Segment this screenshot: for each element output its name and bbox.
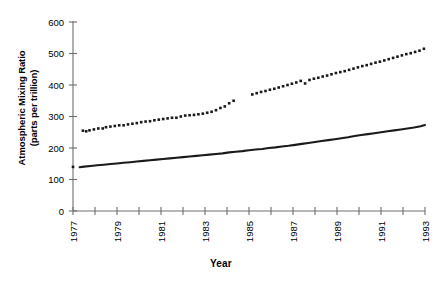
x-tick-label: 1983 [200, 221, 211, 242]
series-solid-lower-series [80, 125, 425, 167]
series-dotted-upper-series-point [361, 65, 364, 68]
y-tick-label: 100 [48, 174, 64, 185]
series-dotted-upper-series-point [251, 93, 254, 96]
x-tick-label: 1987 [288, 221, 299, 242]
series-dotted-upper-series-point [93, 128, 96, 131]
series-dotted-upper-series-point [82, 129, 85, 132]
y-tick-label: 400 [48, 80, 64, 91]
series-dotted-upper-series-point [326, 74, 329, 77]
series-dotted-upper-series-point [383, 59, 386, 62]
series-dotted-upper-series-point [158, 118, 161, 121]
series-dotted-upper-series-point [153, 119, 156, 122]
series-dotted-upper-series-point [308, 79, 311, 82]
series-isolated-left-marker-point [72, 166, 75, 169]
series-dotted-upper-series-point [379, 60, 382, 63]
x-tick-label: 1985 [244, 221, 255, 242]
y-tick-label: 600 [48, 17, 64, 28]
y-tick-label: 300 [48, 111, 64, 122]
series-dotted-upper-series-point [405, 53, 408, 56]
series-dotted-upper-series-point [162, 118, 165, 121]
series-dotted-upper-series-point [335, 72, 338, 75]
series-dotted-upper-series-point [409, 52, 412, 55]
series-dotted-upper-series-point [122, 124, 125, 127]
series-dotted-upper-series-point [188, 114, 191, 117]
series-dotted-upper-series-point [352, 67, 355, 70]
series-dotted-upper-series-point [260, 91, 263, 94]
series-dotted-upper-series-point [118, 124, 121, 127]
series-dotted-upper-series-point [286, 84, 289, 87]
x-tick-label: 1989 [332, 221, 343, 242]
y-tick-label: 500 [48, 48, 64, 59]
series-dotted-upper-series-point [184, 114, 187, 117]
series-dotted-upper-series-point [423, 47, 426, 50]
series-dotted-upper-series-point [370, 63, 373, 66]
y-tick-label: 200 [48, 143, 64, 154]
series-dotted-upper-series-point [224, 105, 227, 108]
series-dotted-upper-series-point [228, 102, 231, 105]
series-dotted-upper-series-point [339, 71, 342, 74]
series-dotted-upper-series-point [313, 77, 316, 80]
series-dotted-upper-series-point [264, 90, 267, 93]
series-dotted-upper-series-point [219, 107, 222, 110]
x-axis-label: Year [0, 258, 442, 269]
series-dotted-upper-series-point [149, 120, 152, 123]
series-dotted-upper-series-point [317, 76, 320, 79]
series-dotted-upper-series-point [215, 109, 218, 112]
chart-figure: Atmospheric Mixing Ratio (parts per tril… [0, 0, 442, 286]
series-dotted-upper-series-point [291, 82, 294, 85]
series-dotted-upper-series-point [269, 88, 272, 91]
series-dotted-upper-series-point [401, 54, 404, 57]
series-dotted-upper-series-point [273, 87, 276, 90]
series-dotted-upper-series-point [175, 116, 178, 119]
series-dotted-upper-series-point [180, 115, 183, 118]
series-dotted-upper-series-point [348, 69, 351, 72]
series-dotted-upper-series-point [343, 70, 346, 73]
series-dotted-upper-series-point [295, 81, 298, 84]
series-dotted-upper-series-point [202, 112, 205, 115]
series-dotted-upper-series-point [197, 113, 200, 116]
series-dotted-upper-series-point [414, 51, 417, 54]
series-dotted-upper-series-point [232, 99, 235, 102]
series-dotted-upper-series-point [357, 66, 360, 69]
series-dotted-upper-series-point [85, 130, 88, 133]
series-dotted-upper-series-point [171, 116, 174, 119]
plot-area: 0100200300400500600197719791981198319851… [0, 0, 442, 286]
series-dotted-upper-series-point [136, 122, 139, 125]
series-dotted-upper-series-point [144, 120, 147, 123]
series-dotted-upper-series-point [418, 49, 421, 52]
series-dotted-upper-series-point [210, 110, 213, 113]
series-dotted-upper-series-point [396, 55, 399, 58]
x-tick-label: 1979 [112, 221, 123, 242]
series-dotted-upper-series-point [140, 121, 143, 124]
y-tick-label: 0 [59, 206, 64, 217]
series-dotted-upper-series-point [321, 75, 324, 78]
x-tick-label: 1977 [68, 221, 79, 242]
series-dotted-upper-series-point [299, 80, 302, 83]
series-dotted-upper-series-point [166, 117, 169, 120]
series-dotted-upper-series-point [392, 57, 395, 60]
series-dotted-upper-series-point [101, 127, 104, 130]
series-dotted-upper-series-point [105, 126, 108, 129]
series-dotted-upper-series-point [304, 82, 307, 85]
series-dotted-upper-series-point [131, 122, 134, 125]
series-dotted-upper-series-point [97, 127, 100, 130]
series-dotted-upper-series-point [88, 129, 91, 132]
series-dotted-upper-series-point [206, 111, 209, 114]
series-dotted-upper-series-point [255, 92, 258, 95]
series-dotted-upper-series-point [114, 125, 117, 128]
series-dotted-upper-series-point [365, 64, 368, 67]
x-tick-label: 1981 [156, 221, 167, 242]
series-dotted-upper-series-point [387, 58, 390, 61]
series-dotted-upper-series-point [193, 114, 196, 117]
series-dotted-upper-series-point [109, 125, 112, 128]
x-tick-label: 1991 [376, 221, 387, 242]
series-dotted-upper-series-point [127, 123, 130, 126]
series-dotted-upper-series-point [330, 73, 333, 76]
series-dotted-upper-series-point [277, 86, 280, 89]
x-tick-label: 1993 [420, 221, 431, 242]
series-dotted-upper-series-point [374, 61, 377, 64]
series-dotted-upper-series-point [282, 85, 285, 88]
